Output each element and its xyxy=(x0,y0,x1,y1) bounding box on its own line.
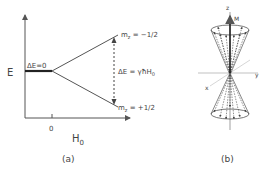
zero-field-label: ΔE=0 xyxy=(27,62,47,70)
lower-level-line xyxy=(52,71,118,107)
upper-level-line xyxy=(52,35,118,71)
diagram-canvas: E ΔE=0 0 H0 mz = −1/2 mz = +1/2 ΔE = γħH… xyxy=(0,0,265,170)
y-axis-label: y xyxy=(255,71,259,79)
x-axis-label: x xyxy=(205,84,209,91)
magnetization-label: M xyxy=(234,15,239,22)
lower-level-label: mz = +1/2 xyxy=(118,104,155,113)
field-axis-label: H0 xyxy=(72,133,84,147)
splitting-label: ΔE = γħH0 xyxy=(118,68,155,77)
energy-axis-label: E xyxy=(7,67,13,78)
panel-a-energy-diagram: E ΔE=0 0 H0 mz = −1/2 mz = +1/2 ΔE = γħH… xyxy=(7,15,158,164)
x-tick-zero: 0 xyxy=(49,125,53,133)
upper-cone-edge-left xyxy=(211,30,230,75)
z-axis-label: z xyxy=(226,4,229,11)
panel-b-precession-cones: z M y x (b) xyxy=(198,4,259,164)
caption-b: (b) xyxy=(221,154,234,164)
upper-cone-edge-right xyxy=(230,30,249,75)
upper-level-label: mz = −1/2 xyxy=(121,31,158,40)
caption-a: (a) xyxy=(62,154,75,164)
